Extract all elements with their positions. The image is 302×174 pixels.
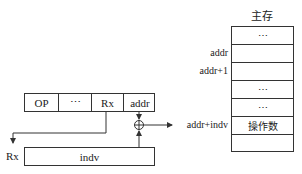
instruction-format: OP ⋯ Rx addr bbox=[24, 93, 155, 112]
label-addr-plus-indv: addr+indv bbox=[187, 119, 228, 130]
label-addr: addr bbox=[210, 47, 228, 58]
register-name: Rx bbox=[6, 150, 19, 162]
adder-icon bbox=[135, 121, 144, 130]
field-rx: Rx bbox=[91, 94, 123, 111]
register-content: indv bbox=[25, 148, 154, 165]
memory-row-addr bbox=[232, 45, 293, 63]
main-memory: ⋯ ⋯ ⋯ 操作数 bbox=[231, 26, 294, 152]
memory-row bbox=[232, 135, 293, 153]
memory-row: ⋯ bbox=[232, 99, 293, 117]
field-addr: addr bbox=[123, 94, 156, 111]
field-op: OP bbox=[25, 94, 58, 111]
field-ellipsis: ⋯ bbox=[58, 94, 91, 111]
memory-row: ⋯ bbox=[232, 81, 293, 99]
index-register: indv bbox=[24, 147, 155, 166]
memory-row: ⋯ bbox=[232, 27, 293, 45]
memory-row-operand: 操作数 bbox=[232, 117, 293, 135]
label-addr-plus-1: addr+1 bbox=[200, 65, 228, 76]
memory-row-addr-plus-1 bbox=[232, 63, 293, 81]
memory-title: 主存 bbox=[251, 7, 273, 23]
